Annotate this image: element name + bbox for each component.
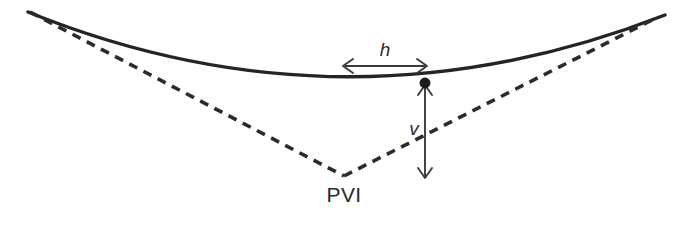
curve-point-marker <box>420 78 430 88</box>
horizontal-offset-dimension: h <box>343 39 427 73</box>
h-label: h <box>380 39 391 60</box>
sag-curve-solid <box>28 12 665 77</box>
pvi-label: PVI <box>326 183 361 206</box>
forward-tangent-dashed-line <box>344 17 658 176</box>
vertical-offset-dimension: v <box>409 85 432 178</box>
back-tangent-dashed-line <box>30 12 344 176</box>
diagram-canvas: h v PVI <box>0 0 690 226</box>
vertical-curve-diagram: h v PVI <box>0 0 690 226</box>
v-label: v <box>409 118 420 139</box>
